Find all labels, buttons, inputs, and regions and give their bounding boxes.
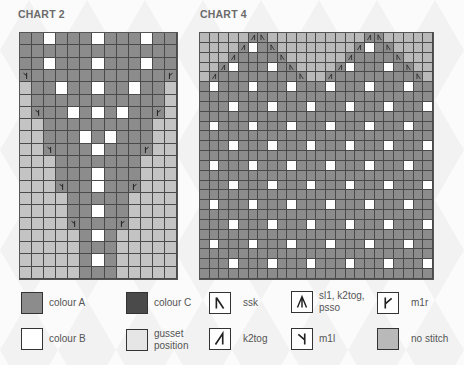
colour-a-cell (105, 95, 117, 107)
legend-m1r: m1r (377, 292, 428, 314)
colour-b-cell (105, 131, 117, 143)
gusset-cell (68, 254, 80, 266)
colour-a-cell (278, 230, 288, 240)
colour-a-cell (316, 112, 326, 122)
colour-a-cell (336, 259, 346, 269)
colour-a-cell (414, 102, 424, 112)
stitch-cell (268, 43, 278, 53)
colour-a-cell (249, 131, 259, 141)
colour-a-cell (414, 92, 424, 102)
colour-b-cell (249, 200, 259, 210)
colour-a-cell (316, 230, 326, 240)
colour-a-cell (105, 230, 117, 242)
stitch-cell (375, 33, 385, 43)
colour-a-cell (384, 112, 394, 122)
colour-a-cell (219, 131, 229, 141)
colour-a-cell (258, 131, 268, 141)
colour-a-cell (336, 210, 346, 220)
colour-a-cell (32, 33, 44, 45)
no-stitch-cell (297, 53, 307, 63)
gusset-cell (165, 156, 177, 168)
colour-b-cell (92, 33, 104, 45)
colour-a-cell (210, 102, 220, 112)
gusset-cell (117, 267, 129, 279)
colour-a-cell (336, 122, 346, 132)
gusset-cell (165, 218, 177, 230)
colour-a-cell (404, 131, 414, 141)
ssk-icon (287, 63, 296, 72)
legend-label: colour A (49, 297, 85, 309)
gusset-cell (20, 242, 32, 254)
sl1-k2tog-psso-icon (291, 291, 313, 313)
k2tog-icon (229, 53, 238, 62)
m1r-icon (153, 107, 164, 118)
gusset-cell (44, 168, 56, 180)
colour-a-cell (375, 171, 385, 181)
colour-a-cell (375, 269, 385, 279)
colour-a-cell (210, 112, 220, 122)
ssk-icon (268, 43, 277, 52)
colour-a-cell (105, 254, 117, 266)
no-stitch-cell (423, 72, 433, 82)
colour-a-cell (404, 141, 414, 151)
colour-b-swatch (21, 328, 43, 350)
colour-a-cell (56, 156, 68, 168)
colour-a-cell (414, 220, 424, 230)
colour-a-cell (394, 210, 404, 220)
m1l-icon (56, 181, 67, 192)
colour-a-cell (375, 131, 385, 141)
colour-a-cell (105, 107, 117, 119)
colour-a-cell (336, 151, 346, 161)
no-stitch-cell (355, 33, 365, 43)
colour-a-cell (105, 144, 117, 156)
colour-a-cell (423, 269, 433, 279)
colour-a-cell (105, 267, 117, 279)
colour-a-cell (80, 33, 92, 45)
colour-b-cell (249, 161, 259, 171)
colour-a-cell (20, 58, 32, 70)
colour-a-cell (200, 171, 210, 181)
no-stitch-cell (394, 43, 404, 53)
colour-a-cell (278, 269, 288, 279)
colour-a-cell (394, 249, 404, 259)
colour-a-cell (258, 43, 268, 53)
colour-a-cell (423, 249, 433, 259)
colour-b-cell (268, 259, 278, 269)
colour-a-cell (258, 63, 268, 73)
colour-a-cell (210, 151, 220, 161)
colour-a-cell (141, 70, 153, 82)
colour-a-cell (307, 240, 317, 250)
colour-a-cell (68, 181, 80, 193)
colour-a-cell (414, 230, 424, 240)
colour-a-cell (117, 156, 129, 168)
colour-a-cell (297, 269, 307, 279)
colour-a-cell (365, 131, 375, 141)
colour-a-cell (56, 95, 68, 107)
colour-a-cell (346, 72, 356, 82)
colour-a-cell (287, 190, 297, 200)
colour-a-cell (375, 249, 385, 259)
colour-a-cell (129, 95, 141, 107)
colour-a-cell (105, 181, 117, 193)
colour-a-cell (92, 242, 104, 254)
colour-a-cell (375, 141, 385, 151)
legend-label: gusset position (154, 328, 198, 352)
colour-a-cell (249, 230, 259, 240)
colour-a-cell (92, 131, 104, 143)
colour-a-cell (326, 249, 336, 259)
no-stitch-cell (307, 53, 317, 63)
no-stitch-cell (336, 53, 346, 63)
k2tog-icon (365, 33, 374, 42)
colour-a-cell (384, 53, 394, 63)
colour-a-cell (278, 122, 288, 132)
no-stitch-cell (316, 53, 326, 63)
colour-a-cell (165, 45, 177, 57)
colour-a-cell (219, 200, 229, 210)
colour-a-cell (200, 151, 210, 161)
gusset-cell (32, 254, 44, 266)
colour-a-cell (355, 102, 365, 112)
colour-a-cell (365, 249, 375, 259)
colour-a-cell (316, 190, 326, 200)
no-stitch-cell (307, 33, 317, 43)
colour-a-cell (404, 92, 414, 102)
